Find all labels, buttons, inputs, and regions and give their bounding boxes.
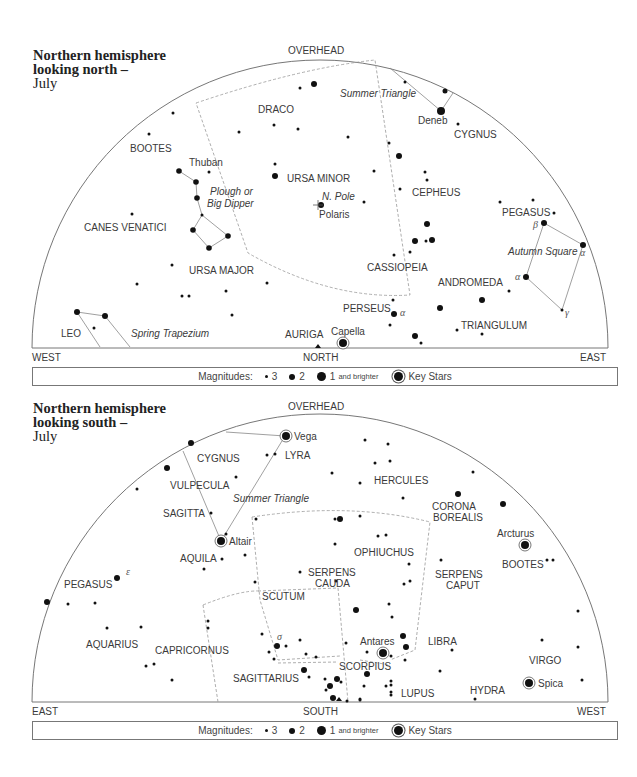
- legend-mag3: 3: [265, 725, 278, 736]
- legend-mag1-suffix: and brighter: [338, 372, 378, 381]
- label-hercules: HERCULES: [374, 475, 429, 486]
- label-sagitta: SAGITTA: [163, 508, 205, 519]
- key-star-altair: [215, 535, 227, 547]
- legend-key-stars: Key Stars: [394, 371, 451, 382]
- label-corona-borealis: CORONA: [432, 501, 476, 512]
- legend-key-stars: Key Stars: [394, 725, 451, 736]
- label-bootes-south: BOOTES: [502, 559, 544, 570]
- label-epsilon: ε: [126, 566, 130, 577]
- label-deneb: Deneb: [418, 115, 448, 126]
- label-plough-text: Plough or: [210, 186, 253, 197]
- mag2-dot-icon: [289, 728, 295, 734]
- south-left-direction: EAST: [32, 706, 58, 717]
- legend-label: Magnitudes:: [198, 371, 252, 382]
- key-star-arcturus: [519, 539, 531, 551]
- label-cygnus: CYGNUS: [454, 129, 497, 140]
- legend-mag2-text: 2: [299, 725, 305, 736]
- label-pegasus-south: PEGASUS: [64, 579, 113, 590]
- north-magnitude-legend: Magnitudes: 3 2 1and brighter Key Stars: [32, 367, 618, 386]
- key-star-spica: [523, 677, 535, 689]
- label-draco: DRACO: [258, 104, 294, 115]
- label-alpha-3: α: [400, 307, 406, 318]
- label-auriga: AURIGA: [285, 329, 324, 340]
- label-canes-venatici: CANES VENATICI: [84, 222, 167, 233]
- label-summer-triangle-north: Summer Triangle: [340, 88, 416, 99]
- label-scorpius: SCORPIUS: [339, 661, 392, 672]
- label-hydra: HYDRA: [470, 685, 505, 696]
- south-center-direction: SOUTH: [303, 706, 338, 717]
- label-thuban: Thuban: [189, 157, 223, 168]
- label-alpha-2: α: [515, 271, 521, 282]
- label-serpens-caput-2: CAPUT: [446, 580, 480, 591]
- south-sky-arc: [32, 414, 608, 702]
- label-perseus: PERSEUS: [343, 303, 391, 314]
- legend-mag1-text: 1: [330, 725, 336, 736]
- label-libra: LIBRA: [428, 636, 457, 647]
- mag1-dot-icon: [317, 726, 326, 735]
- label-triangulum: TRIANGULUM: [461, 320, 527, 331]
- north-left-direction: WEST: [32, 352, 61, 363]
- north-overhead-label: OVERHEAD: [288, 45, 344, 56]
- label-spring-trapezium: Spring Trapezium: [131, 328, 209, 339]
- south-overhead-label: OVERHEAD: [288, 401, 344, 412]
- label-spica: Spica: [538, 678, 563, 689]
- key-star-icon: [394, 726, 403, 735]
- label-alpha-1: α: [580, 247, 586, 258]
- legend-mag2: 2: [289, 725, 305, 736]
- north-right-direction: EAST: [580, 352, 606, 363]
- key-star-antares: [377, 647, 389, 659]
- north-chart: [32, 60, 608, 349]
- legend-mag2-text: 2: [299, 371, 305, 382]
- label-cepheus: CEPHEUS: [412, 187, 461, 198]
- legend-mag1: 1and brighter: [317, 371, 379, 382]
- label-plough-text-2: Big Dipper: [207, 198, 254, 209]
- label-serpens-cauda-2: CAUDA: [315, 578, 350, 589]
- label-corona-borealis-2: BOREALIS: [433, 512, 483, 523]
- mag3-dot-icon: [265, 729, 268, 732]
- label-n-pole: N. Pole: [322, 191, 355, 202]
- label-sagittarius: SAGITTARIUS: [233, 673, 299, 684]
- mag3-dot-icon: [265, 375, 268, 378]
- label-aquila: AQUILA: [180, 553, 217, 564]
- label-scutum: SCUTUM: [262, 591, 305, 602]
- star-charts: OVERHEAD WEST NORTH EAST DRACO BOOTES UR…: [0, 0, 637, 777]
- mag2-dot-icon: [289, 374, 295, 380]
- label-cygnus-south: CYGNUS: [197, 453, 240, 464]
- label-polaris: Polaris: [319, 209, 350, 220]
- label-bootes: BOOTES: [130, 143, 172, 154]
- legend-mag3-text: 3: [272, 725, 278, 736]
- label-cassiopeia: CASSIOPEIA: [367, 262, 428, 273]
- legend-mag3: 3: [265, 371, 278, 382]
- key-star-capella: [337, 337, 349, 349]
- legend-label: Magnitudes:: [198, 725, 252, 736]
- label-ophiuchus: OPHIUCHUS: [354, 547, 414, 558]
- label-beta: β: [532, 219, 538, 230]
- key-star-icon: [394, 372, 403, 381]
- legend-mag1-text: 1: [330, 371, 336, 382]
- label-sigma: σ: [277, 631, 283, 642]
- label-ursa-major: URSA MAJOR: [189, 265, 254, 276]
- label-summer-triangle-south: Summer Triangle: [233, 493, 309, 504]
- legend-mag1-suffix: and brighter: [338, 726, 378, 735]
- label-antares: Antares: [360, 636, 394, 647]
- label-arcturus: Arcturus: [497, 528, 534, 539]
- legend-mag2: 2: [289, 371, 305, 382]
- label-gamma: γ: [565, 307, 570, 318]
- label-serpens-caput: SERPENS: [435, 569, 483, 580]
- label-altair: Altair: [229, 536, 252, 547]
- label-vega: Vega: [294, 431, 317, 442]
- label-vulpecula: VULPECULA: [170, 480, 230, 491]
- label-pegasus: PEGASUS: [502, 207, 551, 218]
- legend-mag3-text: 3: [272, 371, 278, 382]
- key-star-vega: [280, 430, 292, 442]
- label-ursa-minor: URSA MINOR: [287, 173, 350, 184]
- south-right-direction: WEST: [577, 706, 606, 717]
- label-aquarius: AQUARIUS: [86, 639, 139, 650]
- label-capricornus: CAPRICORNUS: [155, 645, 229, 656]
- south-magnitude-legend: Magnitudes: 3 2 1and brighter Key Stars: [32, 721, 618, 740]
- label-serpens-cauda: SERPENS: [308, 567, 356, 578]
- label-lupus: LUPUS: [401, 688, 435, 699]
- label-autumn-square: Autumn Square: [507, 246, 578, 257]
- mag1-dot-icon: [317, 372, 326, 381]
- label-plough: Plough or Big Dipper: [207, 186, 256, 209]
